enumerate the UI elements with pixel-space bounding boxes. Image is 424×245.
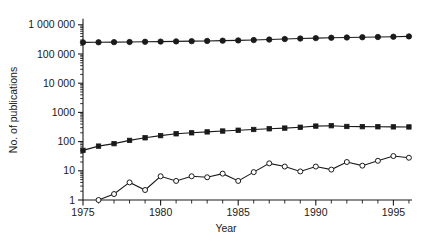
y-tick-label: 10 000 — [43, 77, 75, 89]
data-point-marker — [298, 36, 303, 41]
data-point-marker — [189, 38, 194, 43]
y-axis-title: No. of publications — [7, 67, 19, 153]
data-point-marker — [127, 39, 132, 44]
x-axis-title: Year — [215, 222, 237, 234]
data-point-marker — [111, 39, 116, 44]
data-point-marker — [391, 34, 396, 39]
data-point-marker — [298, 169, 303, 174]
series-line-2 — [99, 156, 409, 200]
y-axis: 110100100010 000100 0001 000 000 — [28, 18, 83, 205]
data-point-marker — [298, 125, 302, 129]
data-point-marker — [205, 175, 210, 180]
x-tick-label: 1990 — [304, 206, 328, 218]
x-tick-label: 1995 — [382, 206, 406, 218]
data-point-marker — [360, 163, 365, 168]
x-tick-label: 1975 — [71, 206, 95, 218]
data-point-marker — [204, 38, 209, 43]
x-tick-label: 1985 — [227, 206, 251, 218]
data-point-marker — [267, 37, 272, 42]
data-point-marker — [329, 124, 333, 128]
data-point-marker — [220, 129, 224, 133]
data-point-marker — [158, 133, 162, 137]
y-tick-label: 100 — [57, 135, 75, 147]
data-point-marker — [406, 34, 411, 39]
series-layer — [80, 34, 411, 203]
data-point-marker — [313, 164, 318, 169]
data-point-marker — [267, 161, 272, 166]
data-point-marker — [96, 198, 101, 203]
data-point-marker — [344, 160, 349, 165]
data-point-marker — [375, 34, 380, 39]
chart-figure: 110100100010 000100 0001 000 000 1975198… — [0, 0, 424, 245]
data-point-marker — [173, 39, 178, 44]
data-point-marker — [329, 35, 334, 40]
data-point-marker — [391, 125, 395, 129]
data-point-marker — [252, 127, 256, 131]
data-point-marker — [96, 40, 101, 45]
data-point-marker — [142, 39, 147, 44]
data-point-marker — [375, 158, 380, 163]
data-point-marker — [127, 138, 131, 142]
data-point-marker — [174, 132, 178, 136]
data-point-marker — [127, 180, 132, 185]
data-point-marker — [406, 155, 411, 160]
data-point-marker — [205, 130, 209, 134]
x-axis: 19751980198519901995 — [71, 200, 412, 218]
y-tick-label: 1000 — [52, 106, 76, 118]
data-point-marker — [96, 144, 100, 148]
data-point-marker — [81, 148, 85, 152]
data-point-marker — [376, 125, 380, 129]
data-point-marker — [391, 154, 396, 159]
data-point-marker — [80, 40, 85, 45]
x-tick-label: 1980 — [149, 206, 173, 218]
data-point-marker — [112, 192, 117, 197]
data-point-marker — [344, 35, 349, 40]
data-point-marker — [189, 174, 194, 179]
data-point-marker — [313, 35, 318, 40]
data-point-marker — [236, 128, 240, 132]
y-tick-label: 1 — [69, 194, 75, 206]
data-point-marker — [283, 126, 287, 130]
data-point-marker — [345, 124, 349, 128]
data-point-marker — [220, 171, 225, 176]
data-point-marker — [360, 35, 365, 40]
data-point-marker — [158, 39, 163, 44]
data-point-marker — [267, 127, 271, 131]
data-point-marker — [236, 178, 241, 183]
data-point-marker — [143, 136, 147, 140]
data-point-marker — [236, 38, 241, 43]
data-point-marker — [112, 141, 116, 145]
data-point-marker — [314, 124, 318, 128]
y-tick-label: 100 000 — [37, 48, 75, 60]
publications-log-chart: 110100100010 000100 0001 000 000 1975198… — [0, 0, 424, 245]
data-point-marker — [174, 178, 179, 183]
data-point-marker — [282, 36, 287, 41]
data-point-marker — [251, 37, 256, 42]
data-point-marker — [143, 188, 148, 193]
y-tick-label: 10 — [63, 164, 75, 176]
data-point-marker — [220, 38, 225, 43]
data-point-marker — [360, 124, 364, 128]
data-point-marker — [158, 174, 163, 179]
data-point-marker — [189, 131, 193, 135]
data-point-marker — [282, 164, 287, 169]
data-point-marker — [329, 167, 334, 172]
data-point-marker — [407, 125, 411, 129]
y-tick-label: 1 000 000 — [28, 18, 75, 30]
data-point-marker — [251, 170, 256, 175]
